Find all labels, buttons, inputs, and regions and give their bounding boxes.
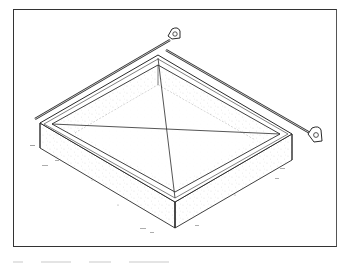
tape-measure-icon bbox=[168, 28, 180, 39]
tape-measure-icon bbox=[308, 127, 322, 142]
caption-strip bbox=[13, 252, 333, 262]
foundation-diagram bbox=[0, 0, 355, 265]
